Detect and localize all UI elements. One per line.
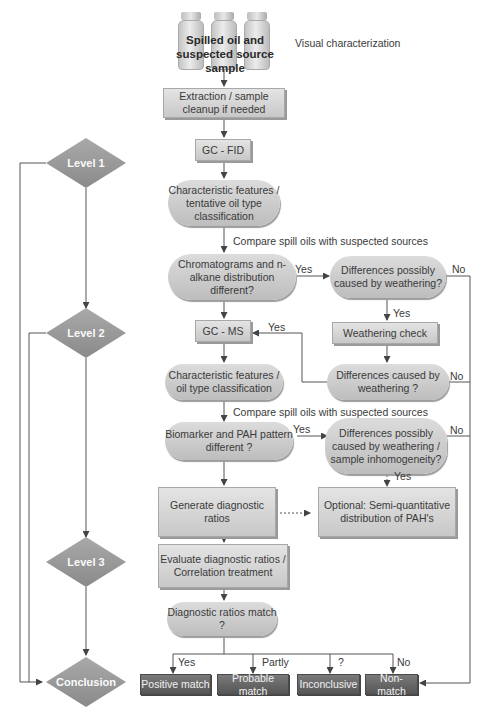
edge-label-yes: Yes: [178, 656, 195, 668]
visual-characterization-note: Visual characterization: [295, 37, 400, 49]
outcome-probable-match: Probable match: [217, 674, 289, 695]
edge-label-yes: Yes: [295, 263, 312, 275]
edge-label-no: No: [452, 263, 465, 275]
ratios-match-decision: Diagnostic ratios match ?: [167, 602, 277, 636]
optional-pah-step: Optional: Semi-quantitative distribution…: [318, 487, 456, 537]
characteristic-features-1: Characteristic features / tentative oil …: [168, 180, 280, 226]
conclusion-label: Conclusion: [44, 657, 128, 707]
edge-label-no: No: [450, 424, 463, 436]
line-level2-conclusion: [29, 333, 46, 682]
edge-label-question: ?: [338, 656, 344, 668]
edge-label-yes: Yes: [394, 470, 411, 482]
conclusion-label-box: Conclusion: [44, 657, 128, 707]
weathering-decision-2: Differences possibly caused by weatherin…: [325, 418, 447, 474]
weathering-check-step: Weathering check: [332, 322, 438, 344]
edge-label-yes: Yes: [393, 307, 410, 319]
gc-ms-step: GC - MS: [195, 320, 251, 342]
level3-label: Level 3: [44, 537, 128, 587]
edge-label-partly: Partly: [262, 656, 289, 668]
level2-label-box: Level 2: [44, 308, 128, 358]
edge-label-yes: Yes: [268, 321, 285, 333]
generate-ratios-step: Generate diagnostic ratios: [158, 487, 276, 537]
gc-fid-step: GC - FID: [195, 139, 251, 161]
start-title: Spilled oil and suspected source sample: [160, 33, 290, 75]
compare-label-1: Compare spill oils with suspected source…: [233, 235, 428, 247]
edge-label-no: No: [397, 656, 410, 668]
edge-label-no: No: [450, 370, 463, 382]
chromatograms-decision: Chromatograms and n-alkane distribution …: [168, 254, 296, 300]
evaluate-ratios-step: Evaluate diagnostic ratios / Correlation…: [158, 544, 288, 588]
characteristic-features-2: Characteristic features / oil type class…: [165, 364, 283, 400]
arrow-level1-conclusion: [20, 163, 46, 682]
extraction-step: Extraction / sample cleanup if needed: [163, 88, 285, 118]
level1-label-box: Level 1: [44, 138, 128, 188]
compare-label-2: Compare spill oils with suspected source…: [233, 406, 428, 418]
biomarker-decision: Biomarker and PAH pattern different ?: [165, 422, 293, 460]
outcome-non-match: Non-match: [365, 674, 418, 695]
weathering-decision-1: Differences possibly caused by weatherin…: [330, 256, 446, 298]
level1-label: Level 1: [44, 138, 128, 188]
weathering-caused-decision: Differences caused by weathering ?: [327, 364, 449, 400]
edge-label-yes: Yes: [293, 423, 310, 435]
level2-label: Level 2: [44, 308, 128, 358]
level3-label-box: Level 3: [44, 537, 128, 587]
outcome-positive-match: Positive match: [140, 674, 211, 695]
outcome-inconclusive: Inconclusive: [297, 674, 360, 695]
